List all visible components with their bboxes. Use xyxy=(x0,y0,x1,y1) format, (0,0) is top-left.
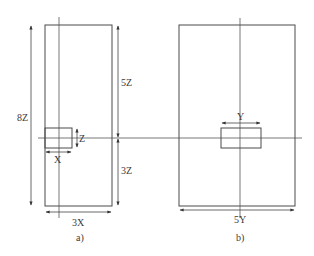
diagram-svg: 8Z 5Z 3Z Z X 3X a) Y xyxy=(0,0,314,256)
label-8z: 8Z xyxy=(17,112,28,123)
label-5z: 5Z xyxy=(121,77,132,88)
label-z: Z xyxy=(79,133,85,144)
label-5y: 5Y xyxy=(234,214,246,225)
label-x: X xyxy=(54,154,62,165)
panel-a: 8Z 5Z 3Z Z X 3X a) xyxy=(17,17,132,244)
diagram-canvas: 8Z 5Z 3Z Z X 3X a) Y xyxy=(0,0,314,256)
label-3x: 3X xyxy=(72,217,85,228)
caption-b: b) xyxy=(236,232,244,244)
panel-b: Y 5Y b) xyxy=(179,18,295,244)
caption-a: a) xyxy=(76,232,84,244)
label-3z: 3Z xyxy=(121,165,132,176)
label-y: Y xyxy=(237,111,244,122)
panel-a-outer-rect xyxy=(45,25,112,206)
